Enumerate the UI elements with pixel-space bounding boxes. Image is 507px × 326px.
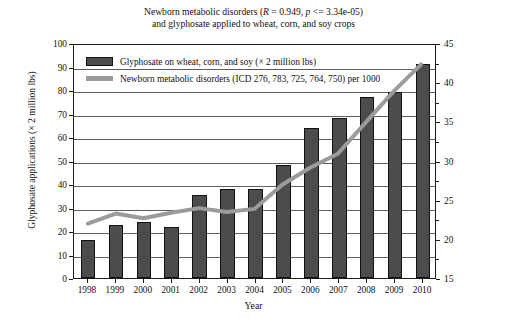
plot-area: Glyphosate on wheat, corn, and soy (× 2 … (73, 44, 436, 279)
newborn-disorders-line (88, 64, 421, 223)
x-tick (115, 279, 116, 283)
y-right-tick (436, 162, 440, 163)
x-tick-label-2010: 2010 (413, 285, 432, 295)
y-right-tick-label-30: 30 (444, 157, 474, 167)
y-right-tick-label-40: 40 (444, 78, 474, 88)
x-tick (338, 279, 339, 283)
x-tick-label-2007: 2007 (329, 285, 348, 295)
y-right-minor-tick (436, 142, 439, 143)
legend-label-glyphosate: Glyphosate on wheat, corn, and soy (× 2 … (120, 57, 316, 67)
y-right-tick-label-45: 45 (444, 39, 474, 49)
y-right-tick-label-25: 25 (444, 196, 474, 206)
y-right-tick (436, 122, 440, 123)
x-tick (199, 279, 200, 283)
chart-root: Newborn metabolic disorders (R = 0.949, … (0, 0, 507, 326)
x-tick-label-1998: 1998 (78, 285, 97, 295)
title-seg-b: = 0.949, (269, 6, 306, 17)
y-right-minor-tick (436, 103, 439, 104)
y-left-tick-label-0: 0 (27, 274, 67, 284)
chart-legend: Glyphosate on wheat, corn, and soy (× 2 … (86, 53, 380, 87)
y-right-tick-label-35: 35 (444, 117, 474, 127)
x-tick (227, 279, 228, 283)
y-right-tick (436, 44, 440, 45)
title-seg-c: <= 3.34e-05) (310, 6, 363, 17)
x-tick (171, 279, 172, 283)
y-right-tick-label-20: 20 (444, 235, 474, 245)
legend-label-newborn-disorders: Newborn metabolic disorders (ICD 276, 78… (120, 74, 380, 84)
x-tick-label-2000: 2000 (134, 285, 153, 295)
x-tick (282, 279, 283, 283)
x-axis-title: Year (0, 300, 507, 311)
x-tick (366, 279, 367, 283)
x-tick (394, 279, 395, 283)
x-tick-label-2004: 2004 (245, 285, 264, 295)
x-tick (255, 279, 256, 283)
y-right-minor-tick (436, 220, 439, 221)
x-tick (143, 279, 144, 283)
x-tick-label-2003: 2003 (217, 285, 236, 295)
y-right-tick (436, 83, 440, 84)
y-right-tick (436, 240, 440, 241)
y-right-minor-tick (436, 64, 439, 65)
x-tick-label-2006: 2006 (301, 285, 320, 295)
legend-item-glyphosate: Glyphosate on wheat, corn, and soy (× 2 … (86, 53, 380, 70)
x-tick-label-2002: 2002 (189, 285, 208, 295)
y-axis-left-title: Glyphosate applications (× 2 million lbs… (26, 45, 37, 255)
y-right-tick-label-15: 15 (444, 274, 474, 284)
legend-item-newborn-disorders: Newborn metabolic disorders (ICD 276, 78… (86, 70, 380, 87)
chart-title-line-2: and glyphosate applied to wheat, corn, a… (0, 18, 507, 30)
chart-title-line-1: Newborn metabolic disorders (R = 0.949, … (0, 6, 507, 18)
y-left-tick (69, 279, 73, 280)
x-tick-label-1999: 1999 (106, 285, 125, 295)
x-tick-label-2009: 2009 (385, 285, 404, 295)
legend-bar-swatch-icon (86, 57, 113, 66)
x-tick-label-2005: 2005 (273, 285, 292, 295)
title-seg-a: Newborn metabolic disorders ( (144, 6, 263, 17)
x-tick (87, 279, 88, 283)
x-tick (310, 279, 311, 283)
legend-line-swatch-icon (86, 76, 113, 81)
x-tick-label-2001: 2001 (161, 285, 180, 295)
chart-title: Newborn metabolic disorders (R = 0.949, … (0, 6, 507, 31)
x-tick (422, 279, 423, 283)
y-right-minor-tick (436, 181, 439, 182)
y-right-minor-tick (436, 259, 439, 260)
y-right-tick (436, 279, 440, 280)
x-tick-label-2008: 2008 (357, 285, 376, 295)
y-right-tick (436, 201, 440, 202)
